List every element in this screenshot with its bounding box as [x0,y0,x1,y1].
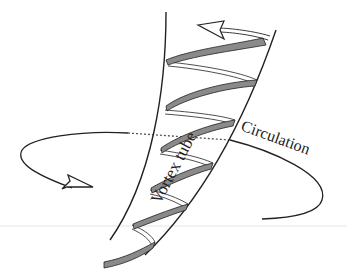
ribbon-arrowhead-icon [198,21,224,39]
vortex-diagram: Vortex tube Circulation [0,0,347,279]
circulation-label: Circulation [239,117,312,158]
circulation-arrowhead-icon [62,175,93,189]
